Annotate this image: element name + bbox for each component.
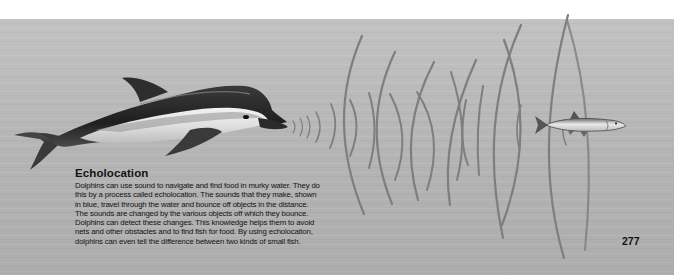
caption-heading: Echolocation bbox=[75, 166, 375, 180]
caption-body: Dolphins can use sound to navigate and f… bbox=[75, 181, 375, 246]
page-number: 277 bbox=[622, 235, 640, 247]
caption-block: Echolocation Dolphins can use sound to n… bbox=[75, 166, 375, 246]
dolphin-icon bbox=[14, 78, 288, 170]
